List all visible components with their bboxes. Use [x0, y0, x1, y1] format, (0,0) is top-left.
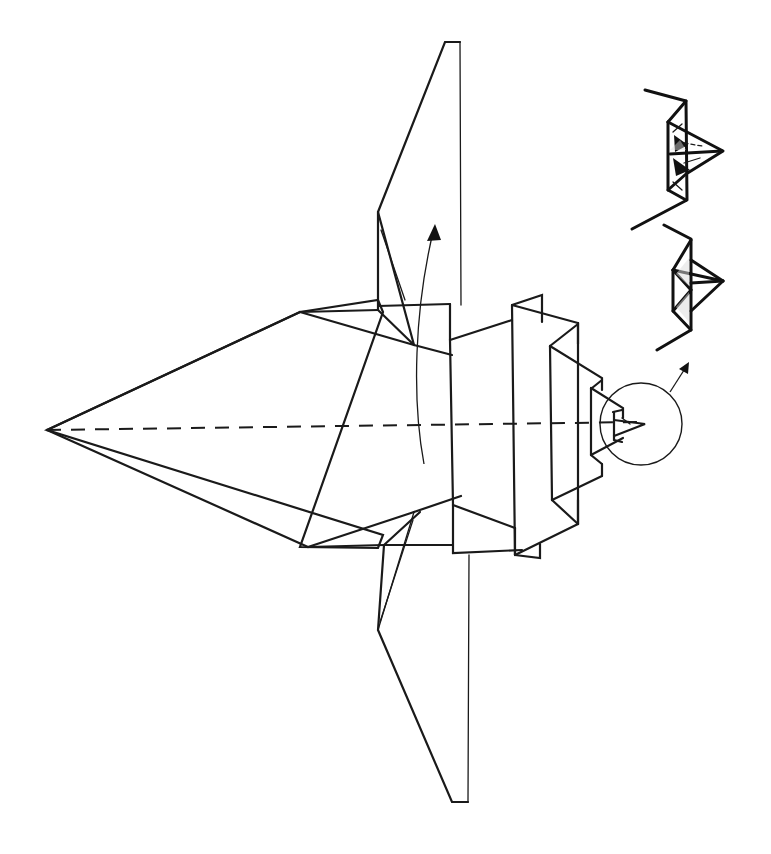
body-tail-stack — [450, 295, 645, 558]
inset-detail-a — [632, 90, 723, 229]
fold-direction-arrow — [417, 224, 441, 464]
detail-pointer-arrowhead — [679, 362, 689, 374]
inset-detail-b — [657, 225, 723, 350]
diagram-canvas — [0, 0, 771, 854]
origami-diagram — [0, 0, 771, 854]
head-neck-shape — [47, 300, 384, 548]
